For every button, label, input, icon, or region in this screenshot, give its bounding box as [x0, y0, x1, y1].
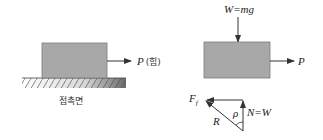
right-diagram: W=mg P — [204, 3, 305, 78]
ground-hatch — [22, 78, 126, 88]
resultant-label: R — [212, 115, 220, 127]
left-diagram: P(힘) 접촉면 — [22, 43, 161, 106]
angle-arc — [236, 122, 243, 125]
angle-label: ρ — [232, 107, 238, 119]
weight-label: W=mg — [224, 3, 255, 15]
force-label-p: P — [297, 55, 305, 67]
force-triangle: Ff R ρ N=W — [188, 92, 272, 131]
block — [204, 42, 270, 78]
block — [42, 43, 107, 78]
contact-surface-label: 접촉면 — [59, 95, 83, 106]
normal-label: N=W — [246, 106, 272, 118]
friction-label: Ff — [188, 92, 199, 107]
force-label-p: P(힘) — [136, 55, 161, 67]
friction-diagram: P(힘) 접촉면 W=mg P Ff R ρ N=W — [0, 0, 323, 140]
